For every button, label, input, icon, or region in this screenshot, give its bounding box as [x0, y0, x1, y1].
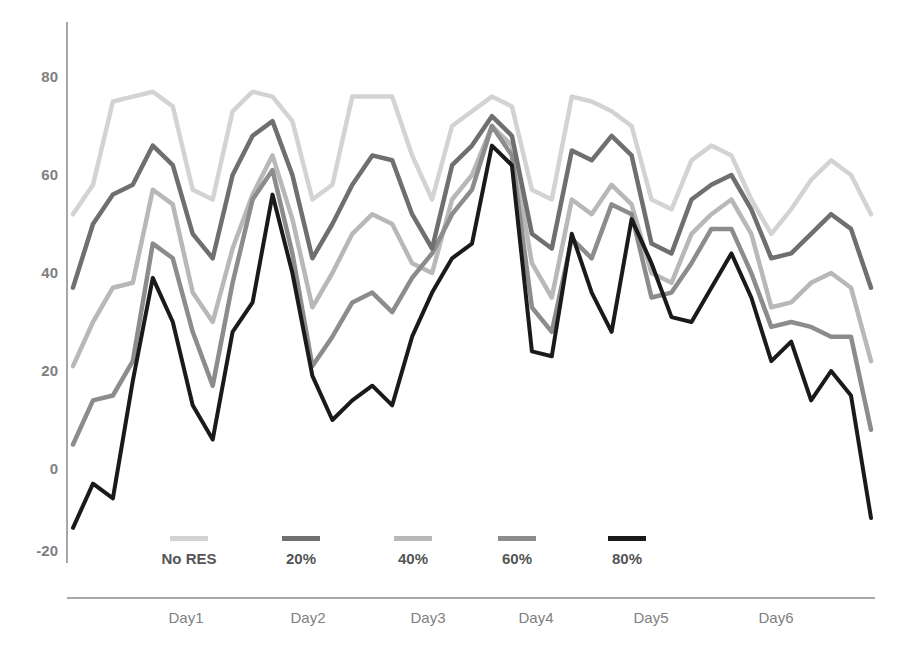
- line-chart: 80 60 40 20 0 -20 Day1 Day2 Day3 Day4 Da…: [0, 0, 904, 654]
- legend-item-20: 20%: [256, 536, 346, 567]
- x-tick-label: Day5: [611, 609, 691, 626]
- legend-label: No RES: [144, 550, 234, 567]
- y-tick-label: 80: [8, 68, 58, 85]
- legend-label: 40%: [368, 550, 458, 567]
- y-tick-label: 60: [8, 166, 58, 183]
- y-tick-label: 40: [8, 264, 58, 281]
- legend-item-80: 80%: [582, 536, 672, 567]
- series-lines: [73, 92, 871, 528]
- legend-item-40: 40%: [368, 536, 458, 567]
- y-tick-label: 20: [8, 362, 58, 379]
- x-tick-label: Day2: [268, 609, 348, 626]
- x-tick-label: Day6: [736, 609, 816, 626]
- legend-label: 60%: [472, 550, 562, 567]
- y-tick-label: 0: [8, 460, 58, 477]
- y-tick-label: -20: [8, 542, 58, 559]
- legend-swatch: [394, 536, 432, 541]
- legend-label: 20%: [256, 550, 346, 567]
- legend-swatch: [498, 536, 536, 541]
- x-tick-label: Day1: [146, 609, 226, 626]
- x-tick-label: Day4: [496, 609, 576, 626]
- legend-label: 80%: [582, 550, 672, 567]
- x-tick-label: Day3: [388, 609, 468, 626]
- legend-item-no-res: No RES: [144, 536, 234, 567]
- legend-item-60: 60%: [472, 536, 562, 567]
- legend-swatch: [608, 536, 646, 541]
- legend-swatch: [170, 536, 208, 541]
- legend-swatch: [282, 536, 320, 541]
